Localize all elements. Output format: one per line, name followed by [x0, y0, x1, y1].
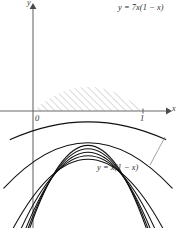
curve-family-group: [4, 122, 172, 228]
x-tick-label-one: 1: [140, 114, 144, 123]
x-tick-label-zero: 0: [35, 114, 39, 123]
y-axis-label: y: [27, 0, 31, 7]
curve-k3: [13, 159, 162, 228]
curve-k7: [30, 145, 146, 228]
axes-group: [0, 3, 172, 228]
annotation-leader-line: [150, 137, 165, 165]
family-of-parabolas-figure: y = 7x(1 − x) y = x(1 − x) 0 1 x y: [0, 0, 182, 228]
x-axis-label: x: [172, 105, 176, 113]
plot-canvas: [0, 0, 182, 228]
top-curve-label: y = 7x(1 − x): [118, 4, 164, 12]
bottom-curve-label: y = x(1 − x): [97, 164, 138, 172]
shaded-band-group: [33, 87, 143, 111]
curve-k2: [4, 143, 172, 189]
